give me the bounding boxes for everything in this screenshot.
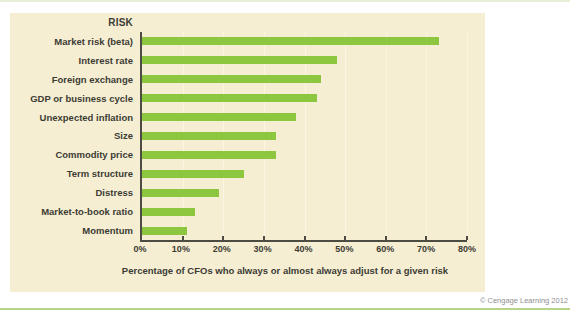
- x-tick-label: 70%: [417, 244, 435, 254]
- category-label: Market risk (beta): [10, 36, 133, 47]
- bar-track: [142, 108, 467, 127]
- copyright-credit: © Cengage Learning 2012: [480, 296, 568, 305]
- bar-track: [142, 202, 467, 221]
- bar: [142, 170, 244, 178]
- bar: [142, 75, 321, 83]
- bar-row: Market-to-book ratio: [10, 202, 467, 221]
- bar-track: [142, 183, 467, 202]
- bar-track: [142, 89, 467, 108]
- x-tick-label: 0%: [133, 244, 146, 254]
- category-label: Market-to-book ratio: [10, 206, 133, 217]
- category-label: Unexpected inflation: [10, 112, 133, 123]
- category-label: Interest rate: [10, 55, 133, 66]
- bar-track: [142, 145, 467, 164]
- bar-track: [142, 51, 467, 70]
- bar: [142, 94, 317, 102]
- bar: [142, 208, 195, 216]
- bar: [142, 56, 337, 64]
- bottom-divider: [0, 308, 570, 310]
- bar-row: Commodity price: [10, 145, 467, 164]
- bar-row: Foreign exchange: [10, 70, 467, 89]
- bar-track: [142, 221, 467, 240]
- category-label: Term structure: [10, 168, 133, 179]
- bar-rows: Market risk (beta)Interest rateForeign e…: [10, 32, 467, 240]
- bar-row: Momentum: [10, 221, 467, 240]
- bar-row: Market risk (beta): [10, 32, 467, 51]
- x-axis-tick-labels: 0%10%20%30%40%50%60%70%80%: [140, 244, 467, 256]
- bar-track: [142, 32, 467, 51]
- figure: RISK Market risk (beta)Interest rateFore…: [0, 0, 570, 319]
- chart-title: RISK: [10, 17, 133, 28]
- category-label: Commodity price: [10, 149, 133, 160]
- bar-track: [142, 164, 467, 183]
- x-tick-label: 80%: [458, 244, 476, 254]
- category-label: Distress: [10, 187, 133, 198]
- bar: [142, 37, 439, 45]
- x-tick-label: 30%: [254, 244, 272, 254]
- x-tick-label: 50%: [335, 244, 353, 254]
- category-label: Foreign exchange: [10, 74, 133, 85]
- bar-row: Distress: [10, 183, 467, 202]
- bar: [142, 132, 276, 140]
- x-tick-label: 10%: [172, 244, 190, 254]
- category-label: Momentum: [10, 225, 133, 236]
- category-label: GDP or business cycle: [10, 93, 133, 104]
- x-tick-label: 40%: [294, 244, 312, 254]
- x-axis-label: Percentage of CFOs who always or almost …: [85, 265, 485, 276]
- x-tick-label: 60%: [376, 244, 394, 254]
- bar: [142, 227, 187, 235]
- category-label: Size: [10, 130, 133, 141]
- bar: [142, 151, 276, 159]
- bar-row: Interest rate: [10, 51, 467, 70]
- chart-panel: RISK Market risk (beta)Interest rateFore…: [10, 13, 485, 292]
- x-tick-label: 20%: [213, 244, 231, 254]
- gridline: [467, 32, 468, 240]
- bar-row: GDP or business cycle: [10, 89, 467, 108]
- bar-row: Size: [10, 127, 467, 146]
- bar: [142, 189, 219, 197]
- bar-track: [142, 127, 467, 146]
- bar-row: Unexpected inflation: [10, 108, 467, 127]
- bar-row: Term structure: [10, 164, 467, 183]
- bar: [142, 113, 296, 121]
- bar-track: [142, 70, 467, 89]
- top-divider: [0, 0, 570, 2]
